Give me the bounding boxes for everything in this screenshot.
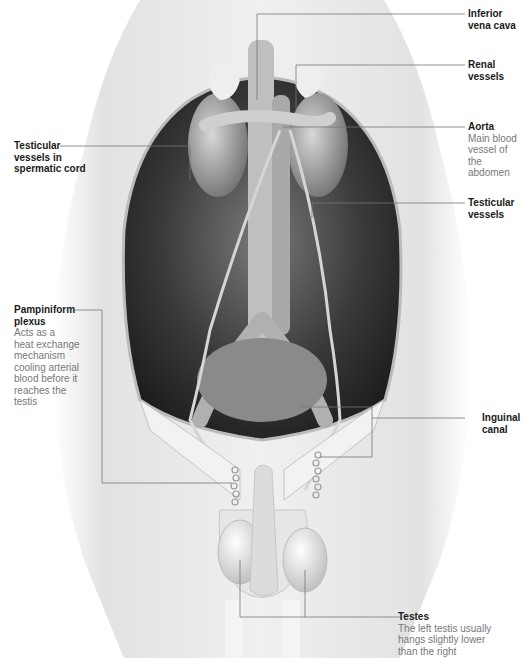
- label-inguinal-canal: Inguinal canal: [482, 412, 520, 435]
- label-title: Inguinal canal: [482, 412, 520, 435]
- inferior-vena-cava: [248, 40, 274, 340]
- label-pampiniform-plexus: Pampiniform plexus Acts as a heat exchan…: [14, 304, 80, 408]
- label-inferior-vena-cava: Inferior vena cava: [468, 8, 516, 31]
- label-testes: Testes The left testis usually hangs sli…: [398, 611, 491, 657]
- label-aorta: Aorta Main blood vessel of the abdomen: [468, 121, 524, 179]
- label-description: Main blood vessel of the abdomen: [468, 133, 524, 179]
- label-title: Pampiniform plexus: [14, 304, 80, 327]
- label-title: Testicular vessels: [468, 197, 515, 220]
- label-title: Inferior vena cava: [468, 8, 516, 31]
- label-description: Acts as a heat exchange mechanism coolin…: [14, 327, 80, 408]
- label-title: Aorta: [468, 121, 524, 133]
- label-renal-vessels: Renal vessels: [468, 59, 504, 82]
- label-title: Testes: [398, 611, 491, 623]
- right-kidney: [188, 93, 248, 197]
- label-testicular-vessels: Testicular vessels: [468, 197, 515, 220]
- label-description: The left testis usually hangs slightly l…: [398, 623, 491, 658]
- label-testicular-vessels-spermatic-cord: Testicular vessels in spermatic cord: [14, 140, 86, 175]
- label-title: Renal vessels: [468, 59, 504, 82]
- label-title: Testicular vessels in spermatic cord: [14, 140, 86, 175]
- bladder: [197, 338, 327, 422]
- left-kidney: [288, 93, 348, 197]
